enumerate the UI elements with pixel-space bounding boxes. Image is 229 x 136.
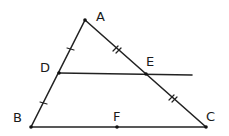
label-d: D bbox=[40, 60, 50, 75]
label-e: E bbox=[146, 54, 154, 69]
label-f: F bbox=[113, 109, 120, 124]
segment-de-extended bbox=[59, 73, 192, 75]
point-e bbox=[144, 72, 148, 76]
point-b bbox=[29, 125, 33, 129]
label-c: C bbox=[206, 109, 215, 124]
point-c bbox=[204, 125, 208, 129]
triangle-diagram: A B C D E F bbox=[0, 0, 229, 136]
point-d bbox=[57, 71, 61, 75]
point-f bbox=[115, 125, 119, 129]
double-tick-mark-ae bbox=[113, 46, 121, 53]
label-a: A bbox=[96, 9, 105, 24]
label-b: B bbox=[13, 110, 22, 125]
point-a bbox=[83, 18, 87, 22]
